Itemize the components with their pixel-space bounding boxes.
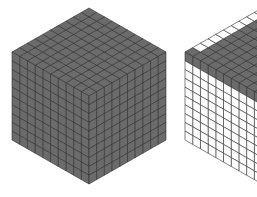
left-face-cell [254,171,257,184]
cube-diagram [0,0,257,197]
full-cube [12,8,166,184]
partial-cube [185,8,257,184]
